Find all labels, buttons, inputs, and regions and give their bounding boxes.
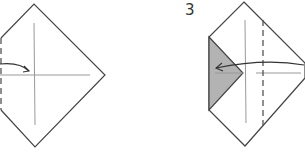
origami-diagram bbox=[0, 0, 305, 152]
step-3-figure bbox=[209, 2, 305, 146]
step-2-figure bbox=[0, 4, 105, 147]
